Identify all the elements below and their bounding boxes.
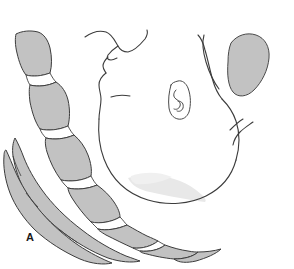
panel-label-a: A [26,232,34,243]
lateral-cervical-spine-drawing [0,0,294,269]
anatomical-figure-panel: A [0,0,294,269]
